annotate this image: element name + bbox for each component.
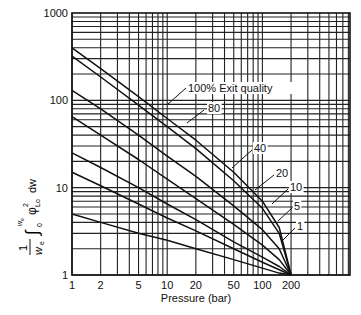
chart: 100% Exit quality80402010511101001000125… xyxy=(0,0,361,315)
y-tick-label: 10 xyxy=(56,182,68,194)
annotation-label: 10 xyxy=(290,181,302,193)
x-tick-label: 200 xyxy=(282,279,300,291)
y-title-subscript: Lo xyxy=(34,199,41,207)
annotation-label: 20 xyxy=(276,167,288,179)
annotation-leader xyxy=(168,88,186,104)
x-tick-label: 5 xyxy=(135,279,141,291)
annotation-label: 1 xyxy=(297,220,303,232)
annotation-label: 5 xyxy=(294,200,300,212)
annotation-leader xyxy=(283,228,295,240)
y-title-phi: φ xyxy=(25,207,39,215)
y-title-dw: dw xyxy=(26,179,38,193)
y-title-superscript: 2 xyxy=(22,203,29,207)
y-axis-title: 1we∫we0φ2Lodw xyxy=(16,179,45,255)
y-title-denominator: w xyxy=(32,246,44,255)
y-title-integral: ∫ xyxy=(22,229,42,237)
y-tick-label: 1 xyxy=(62,269,68,281)
y-tick-label: 1000 xyxy=(44,7,68,19)
y-title-numerator: 1 xyxy=(17,245,29,251)
x-axis-title: Pressure (bar) xyxy=(161,292,231,304)
x-tick-label: 10 xyxy=(161,279,173,291)
x-tick-label: 20 xyxy=(190,279,202,291)
y-title-upper-sub: e xyxy=(19,218,25,221)
y-tick-label: 100 xyxy=(50,94,68,106)
annotation-label: 100% Exit quality xyxy=(188,82,273,94)
x-tick-label: 100 xyxy=(253,279,271,291)
y-title-lower-limit: 0 xyxy=(36,223,43,227)
x-tick-label: 1 xyxy=(69,279,75,291)
annotation-label: 80 xyxy=(208,102,220,114)
annotation-leader xyxy=(232,150,252,168)
x-tick-label: 2 xyxy=(98,279,104,291)
x-tick-label: 50 xyxy=(228,279,240,291)
annotation-label: 40 xyxy=(254,142,266,154)
y-title-denominator-sub: e xyxy=(38,241,45,245)
